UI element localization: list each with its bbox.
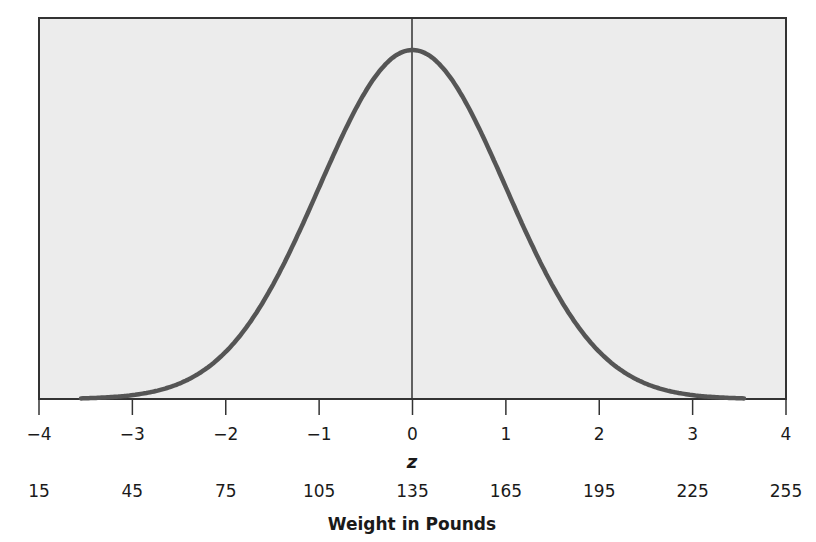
weight-tick-label: 135 — [396, 481, 428, 501]
weight-tick-labels: 154575105135165195225255 — [28, 481, 802, 501]
z-tick-label: 3 — [687, 424, 698, 444]
z-tick-label: −4 — [26, 424, 51, 444]
z-tick-label: 4 — [781, 424, 792, 444]
z-tick-label: 0 — [407, 424, 418, 444]
z-tick-label: −1 — [307, 424, 332, 444]
weight-tick-label: 105 — [303, 481, 335, 501]
weight-tick-label: 225 — [676, 481, 708, 501]
weight-tick-label: 75 — [215, 481, 237, 501]
z-axis-title: z — [406, 451, 418, 472]
weight-tick-label: 15 — [28, 481, 50, 501]
weight-tick-label: 45 — [122, 481, 144, 501]
x-axis-ticks — [39, 399, 786, 415]
z-tick-label: 2 — [594, 424, 605, 444]
weight-tick-label: 195 — [583, 481, 615, 501]
z-tick-label: −3 — [120, 424, 145, 444]
z-tick-label: −2 — [213, 424, 238, 444]
weight-axis-title: Weight in Pounds — [328, 514, 496, 534]
weight-tick-label: 255 — [770, 481, 802, 501]
normal-distribution-chart: −4−3−2−101234 z 154575105135165195225255… — [0, 0, 816, 542]
z-tick-label: 1 — [500, 424, 511, 444]
weight-tick-label: 165 — [490, 481, 522, 501]
z-tick-labels: −4−3−2−101234 — [26, 424, 791, 444]
